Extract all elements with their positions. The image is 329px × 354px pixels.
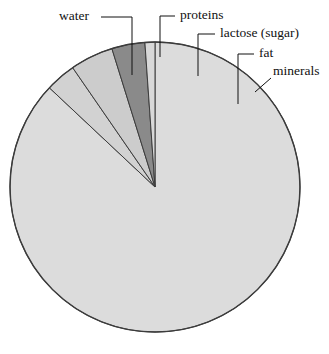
pie-label-lactose-sugar: lactose (sugar) xyxy=(220,25,299,40)
pie-label-proteins: proteins xyxy=(180,7,224,22)
pie-label-minerals: minerals xyxy=(273,63,320,78)
pie-chart-figure: water proteins lactose (sugar) fat miner… xyxy=(0,0,329,354)
pie-slices xyxy=(10,42,300,332)
pie-label-water: water xyxy=(59,8,89,23)
pie-chart-svg: water proteins lactose (sugar) fat miner… xyxy=(0,0,329,354)
pie-label-fat: fat xyxy=(259,45,273,60)
